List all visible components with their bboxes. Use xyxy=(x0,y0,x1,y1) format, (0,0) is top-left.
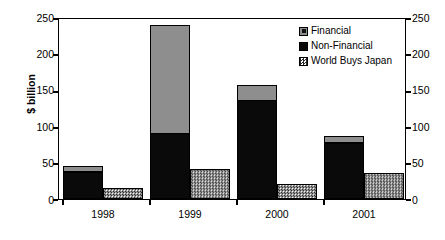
bar-1999-world-buys-japan xyxy=(190,169,230,199)
y-axis-title: $ billion xyxy=(25,49,37,139)
x-tickmark-0 xyxy=(62,200,64,205)
y-tickmark-right-50 xyxy=(406,163,411,165)
bar-2000-non-financial xyxy=(237,100,277,199)
legend-label-non-financial: Non-Financial xyxy=(311,41,373,51)
x-tickmark-3 xyxy=(323,200,325,205)
chart-legend: Financial Non-Financial World Buys Japan xyxy=(296,21,400,72)
chart-container: 250 200 150 100 50 0 $ billion 250 200 1… xyxy=(0,0,445,240)
legend-item-world-buys-japan: World Buys Japan xyxy=(299,54,398,68)
x-axis-label-2000: 2000 xyxy=(237,208,317,220)
y-tick-label-right-50: 50 xyxy=(412,158,445,168)
y-tick-label-right-150: 150 xyxy=(412,85,445,95)
x-tickmark-1 xyxy=(149,200,151,205)
bar-1998-non-financial xyxy=(63,172,103,200)
cropped-title-ghost xyxy=(0,0,445,8)
y-tick-label-left-250: 250 xyxy=(14,13,54,23)
y-tickmark-right-0 xyxy=(406,199,411,201)
y-tick-label-left-50: 50 xyxy=(14,158,54,168)
y-tick-label-right-100: 100 xyxy=(412,122,445,132)
y-tick-label-left-0: 0 xyxy=(14,195,54,205)
y-tickmark-right-250 xyxy=(406,18,411,20)
legend-label-financial: Financial xyxy=(311,26,351,36)
bar-2000-financial xyxy=(237,85,277,101)
bar-2001-financial xyxy=(324,136,364,144)
legend-item-non-financial: Non-Financial xyxy=(299,39,398,53)
bar-2000-world-buys-japan xyxy=(277,184,317,199)
bar-1999-non-financial xyxy=(150,133,190,199)
bar-2001-non-financial xyxy=(324,143,364,200)
bar-1999-financial xyxy=(150,25,190,134)
y-tick-label-right-200: 200 xyxy=(412,49,445,59)
y-tickmark-right-200 xyxy=(406,54,411,56)
bar-1998-financial xyxy=(63,166,103,172)
y-tick-label-right-0: 0 xyxy=(412,195,445,205)
hatched-square-icon xyxy=(299,57,308,66)
legend-item-financial: Financial xyxy=(299,24,398,38)
x-axis-label-1998: 1998 xyxy=(63,208,143,220)
y-tick-label-right-250: 250 xyxy=(412,13,445,23)
gray-square-icon xyxy=(299,27,308,36)
x-axis-label-1999: 1999 xyxy=(150,208,230,220)
x-tickmark-2 xyxy=(236,200,238,205)
bar-1998-world-buys-japan xyxy=(103,188,143,199)
x-axis-label-2001: 2001 xyxy=(324,208,404,220)
legend-label-world-buys-japan: World Buys Japan xyxy=(311,56,392,66)
bar-2001-world-buys-japan xyxy=(364,173,404,199)
y-tickmark-right-150 xyxy=(406,91,411,93)
y-tickmark-right-100 xyxy=(406,127,411,129)
black-square-icon xyxy=(299,42,308,51)
